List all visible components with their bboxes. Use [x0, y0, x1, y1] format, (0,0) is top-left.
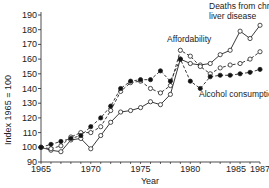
open-circle-marker — [138, 106, 142, 110]
open-circle-marker — [89, 131, 93, 135]
filled-circle-marker — [208, 75, 212, 79]
open-circle-marker — [59, 144, 63, 148]
filled-circle-marker — [79, 133, 83, 137]
x-tick-label: 1965 — [31, 164, 51, 174]
annotation-label: Alcohol consumption — [199, 89, 269, 99]
open-circle-marker — [158, 91, 162, 95]
y-tick-label: 190 — [22, 10, 37, 20]
open-circle-marker — [258, 50, 262, 54]
open-circle-marker — [99, 125, 103, 129]
filled-circle-marker — [138, 78, 142, 82]
filled-circle-marker — [228, 73, 232, 77]
open-circle-marker — [99, 133, 103, 137]
open-circle-marker — [238, 61, 242, 65]
open-circle-marker — [109, 108, 113, 112]
open-circle-marker — [158, 103, 162, 107]
open-circle-marker — [238, 29, 242, 33]
open-circle-marker — [119, 110, 123, 114]
filled-circle-marker — [158, 69, 162, 73]
open-circle-marker — [188, 54, 192, 58]
filled-circle-marker — [238, 72, 242, 76]
y-axis-label: Index 1965 = 100 — [3, 75, 13, 145]
filled-circle-marker — [59, 139, 63, 143]
filled-circle-marker — [248, 70, 252, 74]
open-circle-marker — [248, 57, 252, 61]
y-tick-label: 160 — [22, 54, 37, 64]
filled-circle-marker — [109, 104, 113, 108]
line-chart: 9010011012013014015016017018019019651970… — [0, 0, 269, 188]
y-tick-label: 180 — [22, 25, 37, 35]
open-circle-marker — [228, 48, 232, 52]
open-circle-marker — [218, 66, 222, 70]
x-tick-label: 1970 — [81, 164, 101, 174]
filled-circle-marker — [69, 136, 73, 140]
filled-circle-marker — [178, 57, 182, 61]
filled-circle-marker — [148, 78, 152, 82]
y-tick-label: 150 — [22, 69, 37, 79]
open-circle-marker — [59, 150, 63, 154]
x-tick-label: 1985 — [226, 164, 246, 174]
filled-circle-marker — [49, 142, 53, 146]
open-circle-marker — [168, 83, 172, 87]
annotation-label: liver disease — [209, 11, 257, 21]
open-circle-marker — [218, 53, 222, 57]
open-circle-marker — [258, 23, 262, 27]
filled-circle-marker — [89, 125, 93, 129]
open-circle-marker — [89, 147, 93, 151]
open-circle-marker — [128, 108, 132, 112]
y-tick-label: 140 — [22, 84, 37, 94]
annotation-label: Deaths from chronic — [209, 1, 269, 11]
y-tick-label: 110 — [23, 128, 37, 138]
filled-circle-marker — [258, 67, 262, 71]
y-tick-label: 100 — [22, 142, 37, 152]
open-circle-marker — [168, 92, 172, 96]
open-circle-marker — [188, 61, 192, 65]
open-circle-marker — [228, 63, 232, 67]
x-axis-label: Year — [141, 176, 159, 186]
open-circle-marker — [109, 120, 113, 124]
filled-circle-marker — [168, 79, 172, 83]
open-circle-marker — [49, 147, 53, 151]
open-circle-marker — [208, 61, 212, 65]
x-tick-label: 1987 — [250, 164, 269, 174]
y-tick-label: 130 — [22, 98, 37, 108]
filled-circle-marker — [218, 73, 222, 77]
filled-circle-marker — [188, 79, 192, 83]
annotation-label: Affordability — [167, 34, 212, 44]
open-circle-marker — [248, 36, 252, 40]
open-circle-marker — [148, 86, 152, 90]
filled-circle-marker — [119, 86, 123, 90]
open-circle-marker — [178, 48, 182, 52]
filled-circle-marker — [99, 116, 103, 120]
open-circle-marker — [148, 100, 152, 104]
filled-circle-marker — [39, 145, 43, 149]
y-tick-label: 120 — [22, 113, 37, 123]
filled-circle-marker — [128, 79, 132, 83]
open-circle-marker — [198, 64, 202, 68]
x-tick-label: 1980 — [180, 164, 200, 174]
x-tick-label: 1975 — [131, 164, 151, 174]
y-tick-label: 170 — [22, 39, 37, 49]
